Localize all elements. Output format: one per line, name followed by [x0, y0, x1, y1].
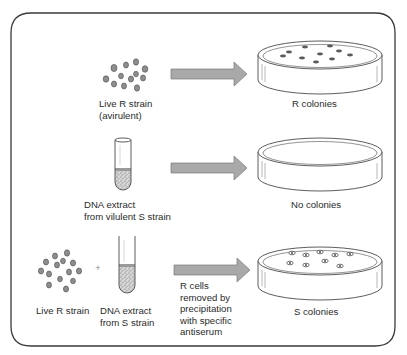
label-live-r-strain-row3: Live R strain [36, 305, 89, 317]
label-line: DNA extract [84, 199, 171, 211]
label-line: R cells [180, 280, 232, 292]
label-line: (avirulent) [99, 110, 152, 122]
label-line: removed by [180, 292, 232, 304]
test-tube-dna-extract-3 [119, 236, 135, 293]
arrow-row-2 [171, 156, 247, 180]
label-r-cells-removed: R cells removed by precipitation with sp… [180, 280, 232, 338]
label-live-r-strain-row1: Live R strain (avirulent) [99, 98, 152, 122]
label-s-colonies: S colonies [294, 306, 338, 318]
arrow-row-1 [171, 62, 247, 86]
label-line: from vilulent S strain [84, 211, 171, 223]
label-line: precipitation [180, 303, 232, 315]
label-line: Live R strain [99, 98, 152, 110]
label-line: antiserum [180, 326, 232, 338]
petri-dish-r-colonies [258, 41, 382, 94]
label-line: with specific [180, 315, 232, 327]
arrow-row-3 [174, 258, 250, 282]
label-dna-extract-s: DNA extract from S strain [100, 305, 154, 329]
label-line: DNA extract [100, 305, 154, 317]
r-cell-cluster-1 [103, 59, 148, 91]
label-line: from S strain [100, 317, 154, 329]
r-cell-cluster-3 [38, 250, 81, 292]
label-dna-extract-virulent: DNA extract from vilulent S strain [84, 199, 171, 223]
plus-sign: + [95, 263, 100, 273]
petri-dish-no-colonies [258, 138, 382, 191]
test-tube-dna-extract-1 [115, 138, 131, 190]
label-no-colonies: No colonies [291, 199, 341, 211]
petri-dish-s-colonies [258, 247, 382, 300]
label-r-colonies: R colonies [292, 98, 337, 110]
